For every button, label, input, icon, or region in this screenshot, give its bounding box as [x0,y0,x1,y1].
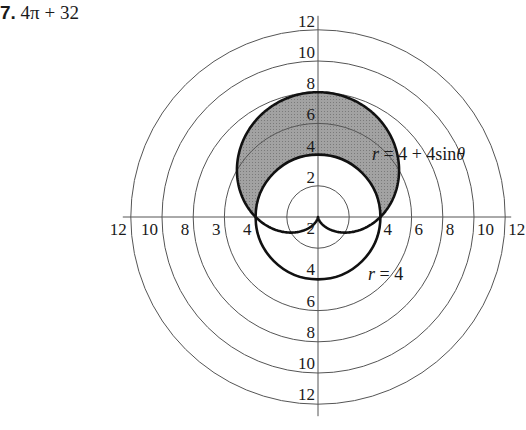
tick-label-up-6: 6 [307,105,316,124]
tick-label-left-8: 8 [181,220,190,239]
tick-label-left-10: 10 [141,220,158,239]
tick-label-down-12: 12 [298,385,315,404]
tick-label-left-4: 4 [243,220,252,239]
tick-label-right-10: 10 [477,220,494,239]
tick-label-left-6: 3 [212,220,221,239]
tick-label-right-6: 6 [415,220,424,239]
circle-label: r = 4 [368,264,403,284]
tick-label-down-6: 6 [307,292,316,311]
polar-plot: 246810122468101243810124681012 r = 4 + 4… [0,0,526,430]
polar-axes [123,16,511,416]
tick-label-right-8: 8 [446,220,455,239]
tick-label-right-4: 4 [383,220,392,239]
tick-label-right-12: 12 [508,220,525,239]
tick-label-down-8: 8 [307,323,316,342]
tick-label-down-2: 2 [307,219,316,238]
tick-label-up-12: 12 [298,12,315,31]
tick-label-down-10: 10 [298,354,315,373]
tick-label-up-8: 8 [307,74,316,93]
tick-label-left-12: 12 [110,220,127,239]
tick-label-up-4: 4 [307,137,316,156]
tick-label-up-2: 2 [307,168,316,187]
cardioid-label: r = 4 + 4sinθ [372,144,465,164]
tick-label-down-4: 4 [307,260,316,279]
tick-label-up-10: 10 [298,43,315,62]
